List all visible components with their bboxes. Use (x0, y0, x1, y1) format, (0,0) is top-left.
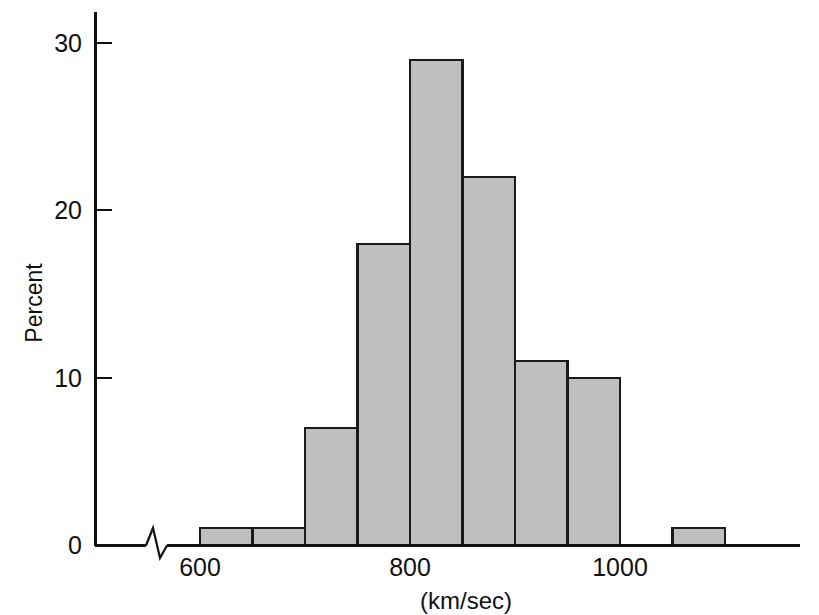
x-axis-tick-label: 600 (179, 553, 221, 581)
histogram-bar (305, 428, 358, 545)
histogram-figure: 0102030 6008001000 Percent (km/sec) (0, 0, 819, 615)
y-axis-tick-label: 30 (54, 29, 82, 57)
y-axis-title: Percent (21, 263, 47, 343)
x-axis-title: (km/sec) (420, 587, 512, 614)
histogram-bar (410, 60, 463, 545)
y-axis-title-group: Percent (21, 263, 47, 343)
histogram-bar (515, 361, 568, 545)
y-axis-tick-label: 0 (68, 531, 82, 559)
x-axis-title-group: (km/sec) (420, 587, 512, 614)
histogram-bar (463, 177, 516, 545)
histogram-bar (200, 528, 253, 545)
y-axis-tick-label: 20 (54, 196, 82, 224)
histogram-bar (253, 528, 306, 545)
histogram-bar (358, 244, 411, 545)
x-axis-tick-label: 1000 (592, 553, 648, 581)
histogram-bar (673, 528, 726, 545)
histogram-bar (568, 378, 621, 545)
x-axis-tick-label: 800 (389, 553, 431, 581)
y-axis-tick-label: 10 (54, 364, 82, 392)
histogram-chart-canvas: 0102030 6008001000 Percent (km/sec) (0, 0, 819, 615)
